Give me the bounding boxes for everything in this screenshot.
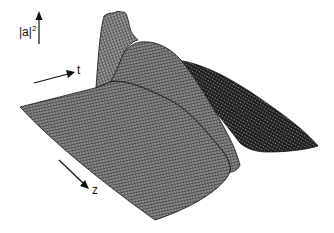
vertical-axis-label: |a|2: [19, 25, 36, 38]
t-axis-arrow: [34, 70, 75, 83]
vertical-axis-superscript: 2: [32, 24, 36, 33]
vertical-axis-label-text: |a|: [19, 25, 32, 39]
surface-plot: [0, 0, 334, 233]
z-axis-label: z: [92, 184, 98, 196]
t-axis-label: t: [77, 64, 80, 76]
vertical-axis-arrow: [36, 11, 43, 44]
